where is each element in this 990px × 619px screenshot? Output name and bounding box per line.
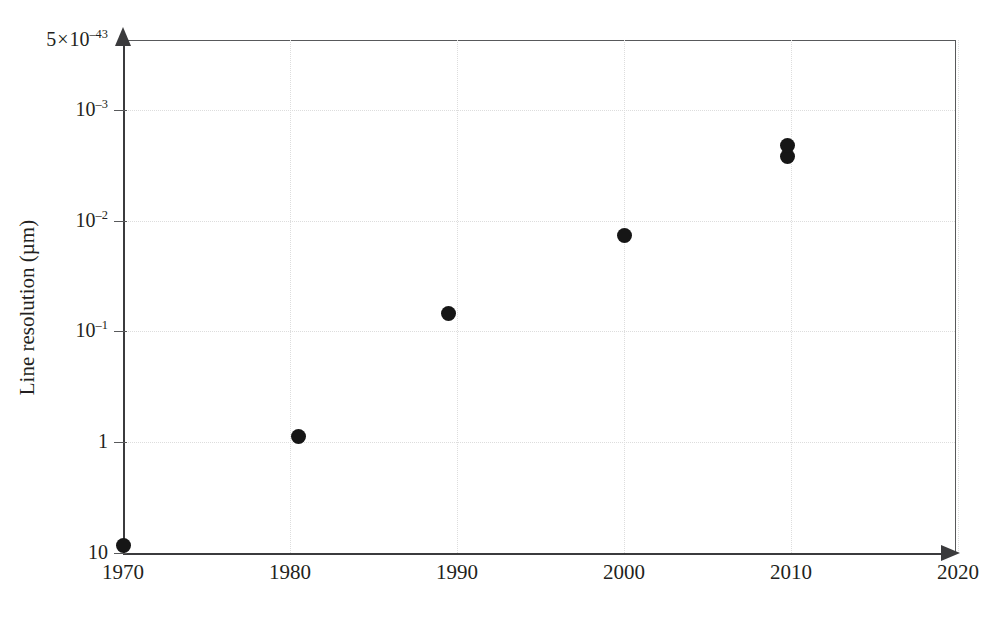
line-resolution-scatter-chart: 5×10–4310–310–210–1110 19701980199020002… (0, 0, 990, 619)
x-axis-tick-label: 2010 (731, 562, 851, 583)
plot-frame-top (123, 40, 956, 41)
data-point-marker (617, 228, 632, 243)
y-axis-tick-label: 1 (98, 431, 108, 451)
gridline-horizontal (123, 221, 955, 222)
y-axis-tick-label: 5×10–43 (46, 29, 108, 49)
y-axis-tick-label: 10–2 (76, 210, 108, 230)
y-axis-tick-label: 10–3 (76, 99, 108, 119)
x-axis-tick-label: 2000 (564, 562, 684, 583)
x-axis-tick-label: 1970 (63, 562, 183, 583)
gridline-horizontal (123, 110, 955, 111)
gridline-horizontal (123, 331, 955, 332)
gridline-vertical (624, 40, 625, 553)
plot-frame-right (955, 40, 956, 554)
y-axis-tick-mark (114, 331, 127, 332)
y-axis-tick-label: 10 (88, 542, 108, 562)
x-axis-tick-label: 1990 (397, 562, 517, 583)
x-axis-arrowhead-icon (941, 545, 960, 561)
y-axis-title: Line resolution (µm) (17, 158, 38, 458)
y-axis-tick-mark (114, 221, 127, 222)
gridline-vertical (457, 40, 458, 553)
y-axis-tick-label: 10–1 (76, 320, 108, 340)
x-axis-tick-label: 1980 (230, 562, 350, 583)
gridline-horizontal (123, 442, 955, 443)
data-point-marker (291, 429, 306, 444)
gridline-vertical (791, 40, 792, 553)
x-axis-tick-label: 2020 (898, 562, 990, 583)
y-axis-tick-mark (114, 553, 127, 554)
y-axis-tick-mark (114, 110, 127, 111)
data-point-marker (116, 538, 131, 553)
gridline-vertical (958, 40, 959, 553)
x-axis-line (123, 553, 953, 555)
data-point-marker (441, 306, 456, 321)
y-axis-line (123, 40, 125, 554)
y-axis-arrowhead-icon (115, 27, 131, 46)
gridline-vertical (290, 40, 291, 553)
y-axis-tick-mark (114, 442, 127, 443)
